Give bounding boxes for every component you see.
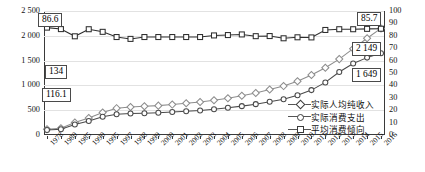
secondary-y-axis-tick-label: 10: [389, 119, 415, 127]
gridline: [44, 85, 384, 86]
y-axis-tick-label: 1 500: [0, 57, 40, 65]
legend-marker-diamond-icon: [288, 98, 311, 110]
secondary-y-axis-tick-label: 50: [389, 69, 415, 77]
x-axis-tick-mark: [200, 136, 201, 139]
gridline: [44, 36, 384, 37]
x-axis-tick-mark: [186, 136, 187, 139]
x-axis-tick-mark: [270, 136, 271, 139]
x-axis-tick-mark: [381, 136, 382, 139]
x-axis-tick-mark: [214, 136, 215, 139]
gridline: [44, 61, 384, 62]
legend-marker-square-icon: [288, 123, 311, 135]
x-axis-tick-mark: [61, 136, 62, 139]
legend-item-propensity: 平均消费倾向: [288, 123, 392, 136]
callout-propensity-end: 85.7: [357, 12, 381, 26]
callout-income-early: 134: [45, 65, 67, 79]
chart-legend: 实际人均纯收入 实际消费支出 平均消费倾向: [288, 98, 392, 136]
legend-marker-circle-icon: [288, 111, 311, 123]
x-axis-tick-mark: [256, 136, 257, 139]
x-axis-tick-mark: [242, 136, 243, 139]
y-axis-tick-label: 500: [0, 106, 40, 114]
x-axis-tick-mark: [298, 136, 299, 139]
secondary-y-axis-tick-label: 60: [389, 57, 415, 65]
x-axis-tick-mark: [367, 136, 368, 139]
secondary-y-axis-tick-label: 80: [389, 32, 415, 40]
secondary-y-axis-tick-label: 90: [389, 19, 415, 27]
x-axis-tick-mark: [144, 136, 145, 139]
secondary-y-axis-tick-label: 30: [389, 94, 415, 102]
callout-consumption-end: 1 649: [352, 68, 381, 82]
secondary-y-axis-tick-label: 40: [389, 81, 415, 89]
legend-label-propensity: 平均消费倾向: [311, 123, 365, 135]
legend-item-income: 实际人均纯收入: [288, 98, 392, 111]
legend-label-income: 实际人均纯收入: [311, 98, 374, 110]
callout-income-end: 2 149: [352, 42, 381, 56]
x-axis-tick-mark: [339, 136, 340, 139]
y-axis-tick-label: 2 000: [0, 32, 40, 40]
legend-item-consumption: 实际消费支出: [288, 111, 392, 124]
secondary-y-axis-tick-label: 100: [389, 7, 415, 15]
gridline: [44, 11, 384, 12]
x-axis-tick-mark: [353, 136, 354, 139]
x-axis-tick-mark: [47, 136, 48, 139]
secondary-y-axis-tick-label: 70: [389, 44, 415, 52]
chart-container: 05001 0001 5002 0002 500 010203040506070…: [0, 0, 425, 172]
x-axis-tick-mark: [228, 136, 229, 139]
x-axis-tick-mark: [131, 136, 132, 139]
x-axis-labels: 1978198019851990199519971998199920002001…: [44, 136, 384, 172]
callout-propensity-start: 86.6: [38, 13, 62, 27]
x-axis-tick-mark: [103, 136, 104, 139]
legend-label-consumption: 实际消费支出: [311, 111, 365, 123]
x-axis-tick-mark: [75, 136, 76, 139]
x-axis-tick-mark: [172, 136, 173, 139]
x-axis-tick-mark: [89, 136, 90, 139]
x-axis-tick-mark: [325, 136, 326, 139]
x-axis-tick-mark: [158, 136, 159, 139]
y-axis-tick-label: 0: [0, 131, 40, 139]
callout-income-start: 116.1: [42, 88, 71, 102]
y-axis-tick-label: 1 000: [0, 81, 40, 89]
y-axis-tick-label: 2 500: [0, 7, 40, 15]
x-axis-tick-mark: [117, 136, 118, 139]
x-axis-tick-mark: [284, 136, 285, 139]
x-axis-tick-mark: [311, 136, 312, 139]
secondary-y-axis-tick-label: 20: [389, 106, 415, 114]
